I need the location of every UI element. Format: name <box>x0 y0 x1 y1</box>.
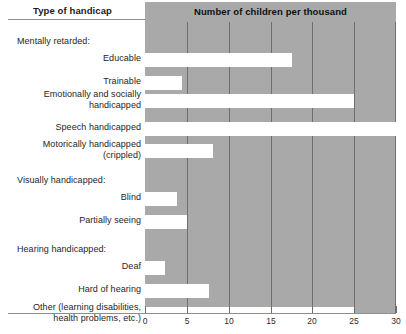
category-label: Educable <box>103 53 141 64</box>
x-axis-tick-label: 20 <box>302 316 322 326</box>
bar <box>145 215 187 229</box>
category-label: Hard of hearing <box>78 284 141 295</box>
category-label: Speech handicapped <box>56 122 141 133</box>
bar <box>145 94 354 108</box>
x-axis-tick-label: 5 <box>177 316 197 326</box>
x-axis-tick-label: 15 <box>261 316 281 326</box>
gridline-25 <box>354 22 355 313</box>
chart-plot-panel <box>145 22 396 313</box>
column-header-type-of-handicap: Type of handicap <box>0 2 145 19</box>
bar <box>145 261 165 275</box>
x-axis-tick <box>145 306 146 313</box>
x-axis-tick-label: 10 <box>219 316 239 326</box>
category-label-column: Mentally retarded:EducableTrainableEmoti… <box>0 22 141 313</box>
group-heading-label: Visually handicapped: <box>0 175 105 186</box>
category-label: Partially seeing <box>79 215 141 226</box>
x-axis-line <box>8 313 396 314</box>
handicap-bar-chart-figure: Type of handicap Number of children per … <box>0 0 406 334</box>
x-axis-tick-label: 25 <box>344 316 364 326</box>
x-axis-tick <box>354 306 355 313</box>
column-header-number-of-children: Number of children per thousand <box>145 2 396 22</box>
category-label: Trainable <box>103 76 141 87</box>
bar <box>145 284 209 298</box>
group-heading-label: Hearing handicapped: <box>0 244 106 255</box>
category-label: Motorically handicapped (crippled) <box>43 139 141 161</box>
x-axis-tick <box>396 306 397 313</box>
x-axis-tick-label: 0 <box>135 316 155 326</box>
panel-right-border <box>395 22 396 313</box>
bar <box>145 144 213 158</box>
gridline-20 <box>312 22 313 313</box>
bar <box>145 122 396 136</box>
x-axis-tick <box>229 306 230 313</box>
group-heading-label: Mentally retarded: <box>0 36 90 47</box>
bar <box>145 53 292 67</box>
bar <box>145 76 182 90</box>
category-label: Emotionally and socially handicapped <box>44 89 141 111</box>
bar <box>145 192 177 206</box>
category-label: Deaf <box>122 261 141 272</box>
x-axis-tick <box>187 306 188 313</box>
x-axis-tick <box>312 306 313 313</box>
category-label: Blind <box>121 192 141 203</box>
x-axis-tick-label: 30 <box>386 316 406 326</box>
header-divider-rule <box>8 19 145 20</box>
x-axis-tick <box>271 306 272 313</box>
